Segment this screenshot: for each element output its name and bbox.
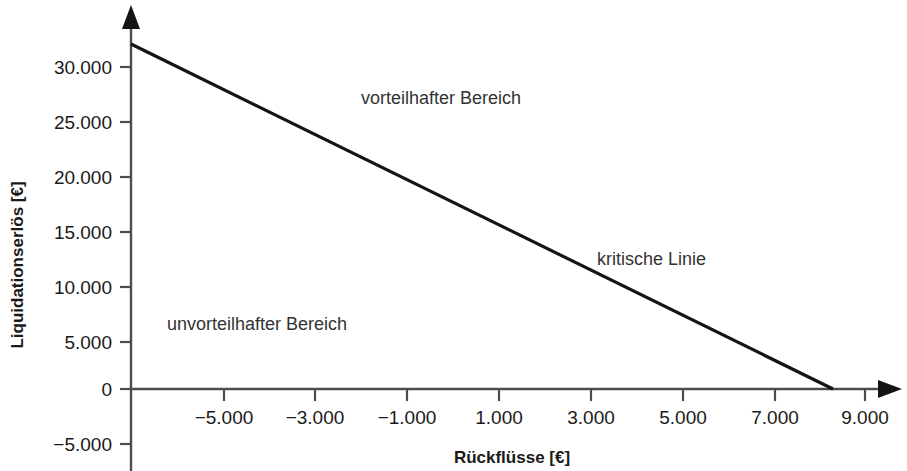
y-axis-title: Liquidationserlös [€] [8, 181, 27, 348]
disadvantageous-region-label: unvorteilhafter Bereich [167, 314, 347, 334]
advantageous-region-label: vorteilhafter Bereich [361, 88, 521, 108]
y-tick-label-15000: 15.000 [54, 222, 112, 243]
chart-container: 30.000 25.000 20.000 15.000 10.000 5.000… [0, 0, 907, 471]
x-axis-arrow-right-icon [878, 380, 902, 398]
x-tick-label-minus5000: −5.000 [195, 407, 254, 428]
annotations-group: vorteilhafter Bereich unvorteilhafter Be… [167, 88, 706, 334]
chart-canvas: 30.000 25.000 20.000 15.000 10.000 5.000… [0, 0, 907, 471]
y-tick-label-0: 0 [101, 379, 112, 400]
x-axis-title: Rückflüsse [€] [454, 448, 570, 467]
x-axis-group: −5.000 −3.000 −1.000 1.000 3.000 5.000 7… [131, 380, 902, 467]
x-tick-label-3000: 3.000 [567, 407, 615, 428]
x-tick-label-9000: 9.000 [841, 407, 889, 428]
x-tick-label-5000: 5.000 [659, 407, 707, 428]
y-tick-label-10000: 10.000 [54, 277, 112, 298]
y-tick-label-30000: 30.000 [54, 57, 112, 78]
x-tick-label-minus3000: −3.000 [286, 407, 345, 428]
y-axis-group: 30.000 25.000 20.000 15.000 10.000 5.000… [8, 5, 140, 471]
y-tick-label-25000: 25.000 [54, 112, 112, 133]
x-tick-label-7000: 7.000 [751, 407, 799, 428]
y-tick-label-minus5000: −5.000 [53, 434, 112, 455]
x-tick-label-minus1000: −1.000 [378, 407, 437, 428]
y-tick-label-5000: 5.000 [64, 332, 112, 353]
x-tick-label-1000: 1.000 [475, 407, 523, 428]
critical-line-label: kritische Linie [597, 249, 706, 269]
y-tick-label-20000: 20.000 [54, 167, 112, 188]
y-axis-arrow-up-icon [122, 5, 140, 29]
